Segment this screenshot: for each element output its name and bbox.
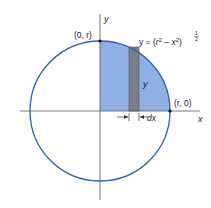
circle-area-diagram: y x (0, r) (r, 0) y dx y = (r2 – x2) 1 2 xyxy=(0,0,211,208)
equation: y = (r2 – x2) 1 2 xyxy=(139,30,199,47)
strip-width-label: dx xyxy=(147,113,157,123)
dx-arrowhead-left xyxy=(124,115,128,119)
point-top-label: (0, r) xyxy=(74,30,92,40)
point-right xyxy=(168,109,171,112)
point-right-label: (r, 0) xyxy=(174,98,192,108)
power-denominator: 2 xyxy=(195,36,198,42)
strip-height-label: y xyxy=(142,79,148,89)
svg-text:y = (r2 – x2): y = (r2 – x2) xyxy=(139,37,182,47)
x-axis-label: x xyxy=(197,114,203,124)
point-top xyxy=(98,39,101,42)
dx-arrowhead-right xyxy=(140,115,144,119)
y-axis-label: y xyxy=(103,14,109,24)
integration-strip xyxy=(129,47,139,111)
